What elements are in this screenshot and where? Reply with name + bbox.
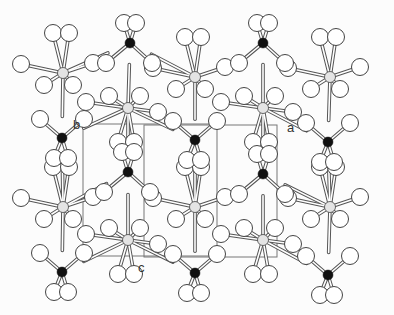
oxygen-atom [101, 88, 118, 105]
oxygen-atom [231, 55, 248, 72]
oxygen-atom [144, 55, 161, 72]
oxygen-atom [193, 152, 210, 169]
axis-label-c: c [138, 261, 145, 274]
oxygen-atom [101, 220, 118, 237]
oxygen-atom [267, 88, 284, 105]
oxygen-atom [96, 184, 113, 201]
phosphorus-atom [57, 267, 67, 277]
oxygen-atom [168, 81, 185, 98]
metal-atom [123, 235, 134, 246]
oxygen-atom [65, 77, 82, 94]
oxygen-atom [36, 77, 53, 94]
oxygen-atom [236, 88, 253, 105]
oxygen-atom [342, 248, 359, 265]
oxygen-atom [213, 94, 230, 111]
phosphorus-atom [190, 135, 200, 145]
oxygen-atom [326, 154, 343, 171]
oxygen-atom [165, 246, 182, 263]
oxygen-atom [312, 29, 329, 46]
oxygen-atom [168, 211, 185, 228]
phosphorus-atom [190, 268, 200, 278]
oxygen-atom [298, 115, 315, 132]
oxygen-atom [261, 266, 278, 283]
oxygen-atom [32, 111, 49, 128]
oxygen-atom [76, 245, 93, 262]
oxygen-atom [65, 211, 82, 228]
metal-atom [123, 103, 134, 114]
oxygen-atom [142, 184, 159, 201]
metal-atom [58, 68, 69, 79]
oxygen-atom [193, 285, 210, 302]
oxygen-atom [45, 25, 62, 42]
structure-drawing [0, 0, 394, 315]
phosphorus-atom [323, 270, 333, 280]
oxygen-atom [261, 15, 278, 32]
oxygen-atom [128, 15, 145, 32]
oxygen-atom [285, 236, 302, 253]
metal-atom [58, 202, 69, 213]
oxygen-atom [78, 94, 95, 111]
metal-atom [190, 72, 201, 83]
oxygen-atom [209, 246, 226, 263]
oxygen-atom [110, 266, 127, 283]
oxygen-atom [332, 81, 349, 98]
oxygen-atom [213, 226, 230, 243]
oxygen-atom [165, 113, 182, 130]
oxygen-atom [13, 56, 30, 73]
oxygen-atom [60, 150, 77, 167]
axis-label-b: b [73, 118, 80, 131]
oxygen-atom [328, 29, 345, 46]
oxygen-atom [209, 113, 226, 130]
oxygen-atom [150, 104, 167, 121]
oxygen-atom [13, 190, 30, 207]
oxygen-atom [98, 55, 115, 72]
oxygen-atom [132, 220, 149, 237]
metal-atom [325, 202, 336, 213]
phosphorus-atom [125, 38, 135, 48]
metal-atom [258, 103, 269, 114]
oxygen-atom [36, 211, 53, 228]
oxygen-atom [32, 245, 49, 262]
bond-inner [62, 207, 63, 251]
oxygen-atom [267, 220, 284, 237]
oxygen-atom [61, 25, 78, 42]
oxygen-atom [197, 81, 214, 98]
oxygen-atom [236, 220, 253, 237]
oxygen-atom [261, 146, 278, 163]
phosphorus-atom [258, 38, 268, 48]
phosphorus-atom [123, 167, 133, 177]
phosphorus-atom [323, 137, 333, 147]
oxygen-atom [342, 115, 359, 132]
oxygen-atom [326, 287, 343, 304]
metal-atom [325, 72, 336, 83]
oxygen-atom [277, 186, 294, 203]
metal-atom [190, 202, 201, 213]
crystal-structure-diagram: a b c [0, 0, 394, 315]
oxygen-atom [245, 266, 262, 283]
phosphorus-atom [57, 133, 67, 143]
phosphorus-atom [258, 169, 268, 179]
oxygen-atom [298, 248, 315, 265]
oxygen-atom [60, 284, 77, 301]
axis-label-a: a [287, 121, 294, 134]
oxygen-atom [277, 55, 294, 72]
oxygen-atom [197, 211, 214, 228]
oxygen-atom [352, 59, 369, 76]
bond-inner [62, 73, 63, 117]
oxygen-atom [303, 211, 320, 228]
oxygen-atom [231, 186, 248, 203]
oxygen-atom [177, 29, 194, 46]
metal-atom [258, 235, 269, 246]
oxygen-atom [150, 236, 167, 253]
oxygen-atom [352, 189, 369, 206]
oxygen-atom [78, 226, 95, 243]
oxygen-atom [332, 211, 349, 228]
oxygen-atom [126, 144, 143, 161]
oxygen-atom [193, 29, 210, 46]
oxygen-atom [132, 88, 149, 105]
oxygen-atom [303, 81, 320, 98]
